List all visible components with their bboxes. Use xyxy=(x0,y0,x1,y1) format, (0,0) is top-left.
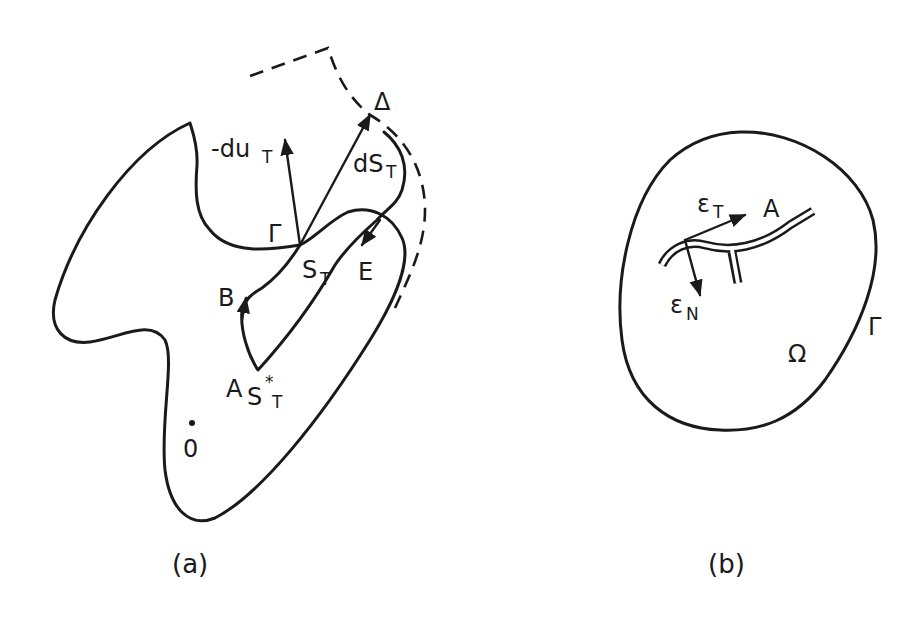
label-neg-du-sub: T xyxy=(261,147,273,167)
label-a-s: S xyxy=(247,383,262,411)
panel-b: ε T A ε N Γ Ω (b) xyxy=(620,132,882,579)
label-ds-sub: T xyxy=(385,162,397,182)
label-eps-n: ε xyxy=(670,291,683,319)
panel-a: -du T dS T Δ Γ S T E B A S T * 0 (a) xyxy=(53,48,425,579)
label-e: E xyxy=(358,258,373,286)
dashed-region-boundary xyxy=(250,48,425,308)
eps-n-arrow xyxy=(685,240,700,295)
origin-point xyxy=(189,420,195,426)
label-omega: Ω xyxy=(788,340,806,368)
label-delta: Δ xyxy=(374,88,391,116)
neg-du-arrow xyxy=(285,140,300,245)
label-a: A xyxy=(226,375,243,403)
label-a-b: A xyxy=(763,195,780,223)
label-eps-n-sub: N xyxy=(686,304,699,324)
label-gamma-b: Γ xyxy=(868,313,882,341)
figure-canvas: -du T dS T Δ Γ S T E B A S T * 0 (a) ε T… xyxy=(0,0,923,617)
ds-arrow xyxy=(300,115,370,245)
label-a-s-sup: * xyxy=(265,372,274,392)
label-ds: dS xyxy=(353,150,383,178)
domain-boundary-gamma xyxy=(620,132,876,430)
label-a-s-sub: T xyxy=(271,392,283,412)
label-b: B xyxy=(218,284,234,312)
label-s-sub: T xyxy=(319,269,331,289)
label-origin: 0 xyxy=(183,435,198,463)
label-eps-t: ε xyxy=(697,190,710,218)
label-eps-t-sub: T xyxy=(712,202,724,222)
caption-a: (a) xyxy=(172,549,208,579)
label-s: S xyxy=(302,256,317,284)
label-neg-du: -du xyxy=(211,135,250,163)
body-boundary-gamma xyxy=(53,123,404,521)
caption-b: (b) xyxy=(708,549,745,579)
label-gamma-a: Γ xyxy=(268,220,282,248)
